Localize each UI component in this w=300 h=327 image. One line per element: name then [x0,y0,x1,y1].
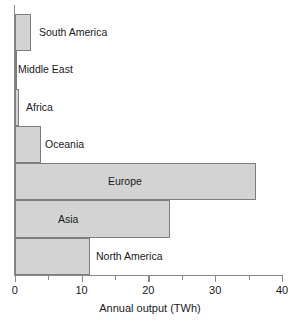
bar-north-america [15,238,91,275]
bar-label-europe: Europe [108,176,142,187]
x-tick-label-0: 0 [12,285,18,296]
plot-area: South America Middle East Africa Oceania… [0,0,300,280]
bar-label-middle-east: Middle East [18,64,73,75]
x-tick-label-20: 20 [142,285,154,296]
x-axis-title: Annual output (TWh) [0,303,300,314]
bar-south-america [15,14,32,51]
bar-label-south-america: South America [39,27,107,38]
x-tick-30 [215,276,216,282]
bar-middle-east [15,51,17,88]
x-tick-20 [148,276,149,282]
bar-africa [15,89,20,126]
x-tick-40 [282,276,283,282]
x-tick-5 [48,276,49,280]
bar-oceania [15,126,41,163]
x-tick-0 [15,276,16,282]
bar-label-asia: Asia [58,214,78,225]
bar-label-africa: Africa [26,102,53,113]
bar-label-oceania: Oceania [45,139,84,150]
x-tick-label-10: 10 [75,285,87,296]
x-tick-35 [249,276,250,280]
x-tick-10 [82,276,83,282]
x-tick-label-40: 40 [276,285,288,296]
bar-chart: South America Middle East Africa Oceania… [0,0,300,327]
bar-asia [15,200,171,237]
x-tick-25 [182,276,183,280]
bar-label-north-america: North America [96,251,163,262]
x-tick-15 [115,276,116,280]
x-tick-label-30: 30 [209,285,221,296]
